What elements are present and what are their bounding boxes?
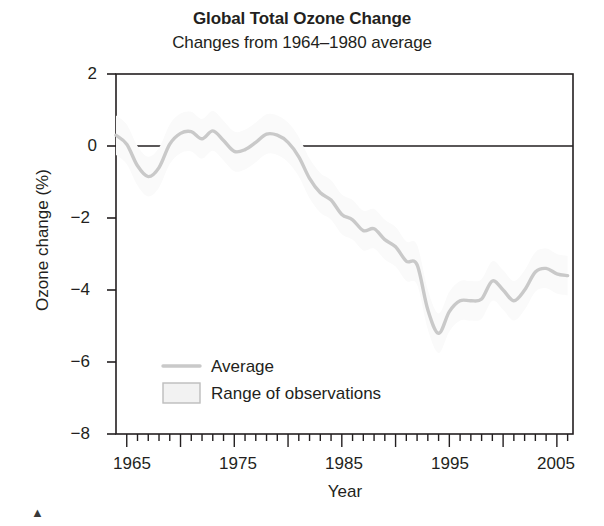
page-corner-mark: ▲ [31, 505, 44, 520]
range-of-observations-band [116, 111, 568, 353]
legend-swatch-range [163, 383, 200, 403]
y-axis-ticks [107, 74, 116, 434]
plot-area [0, 0, 604, 526]
ozone-chart-figure: Global Total Ozone Change Changes from 1… [0, 0, 604, 526]
